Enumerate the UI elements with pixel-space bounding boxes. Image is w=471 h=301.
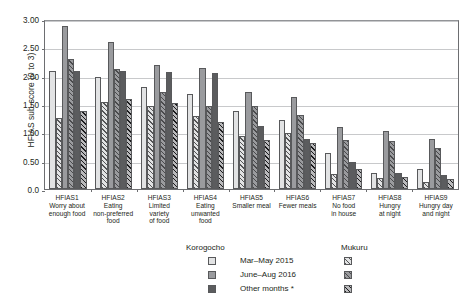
legend-swatch-mukuru bbox=[344, 285, 352, 293]
bar-group bbox=[366, 21, 412, 189]
x-axis-labels: HFIAS1Worry aboutenough foodHFIAS2Eating… bbox=[44, 194, 459, 225]
x-axis-category-desc: Limitedvarietyof food bbox=[137, 202, 181, 225]
bar bbox=[218, 122, 224, 189]
x-axis-category-desc: Worry aboutenough food bbox=[45, 202, 89, 217]
legend-swatch-korogocho bbox=[208, 257, 216, 265]
y-axis-tick-label: 0.50 bbox=[5, 158, 39, 167]
x-axis-category: HFIAS8Hungryat night bbox=[367, 194, 413, 225]
y-axis-tick-label: 1.50 bbox=[5, 101, 39, 110]
bar bbox=[356, 169, 362, 189]
x-axis-category-code: HFIAS9 bbox=[414, 194, 458, 202]
x-axis-category-code: HFIAS3 bbox=[137, 194, 181, 202]
x-axis-category-desc: Hungry dayand night bbox=[414, 202, 458, 217]
bar bbox=[447, 179, 453, 189]
bar bbox=[126, 99, 132, 189]
y-axis-tick-label: 0.0 bbox=[5, 186, 39, 195]
legend-swatch-mukuru bbox=[344, 257, 352, 265]
x-axis-category: HFIAS2Eatingnon-preferredfood bbox=[90, 194, 136, 225]
plot-area: 0.00.501.001.502.002.503.00 bbox=[44, 20, 459, 190]
bar-group bbox=[320, 21, 366, 189]
bar bbox=[402, 177, 408, 189]
x-axis-category-desc: Eatingnon-preferredfood bbox=[91, 202, 135, 225]
x-axis-category-code: HFIAS7 bbox=[322, 194, 366, 202]
legend-column-mukuru: Mukuru bbox=[341, 243, 368, 252]
x-axis-category: HFIAS4Eatingunwantedfood bbox=[182, 194, 228, 225]
y-axis-tick-label: 3.00 bbox=[5, 16, 39, 25]
x-axis-category-code: HFIAS1 bbox=[45, 194, 89, 202]
x-axis-category-code: HFIAS4 bbox=[183, 194, 227, 202]
bar bbox=[80, 111, 86, 189]
chart-figure: HFIAS sub-score (0 to 3) 0.00.501.001.50… bbox=[0, 0, 471, 301]
x-axis-category-code: HFIAS5 bbox=[229, 194, 273, 202]
x-axis-category: HFIAS6Fewer meals bbox=[275, 194, 321, 225]
x-axis-category-desc: No foodin house bbox=[322, 202, 366, 217]
legend-label: June–Aug 2016 bbox=[240, 270, 296, 279]
x-axis-category-desc: Eatingunwantedfood bbox=[183, 202, 227, 225]
x-axis-category: HFIAS9Hungry dayand night bbox=[413, 194, 459, 225]
bar-group bbox=[45, 21, 91, 189]
x-axis-category-code: HFIAS6 bbox=[276, 194, 320, 202]
x-axis-category-code: HFIAS2 bbox=[91, 194, 135, 202]
legend-swatch-mukuru bbox=[344, 271, 352, 279]
y-axis-tick-label: 2.00 bbox=[5, 73, 39, 82]
legend-swatch-korogocho bbox=[208, 285, 216, 293]
bar-group bbox=[229, 21, 275, 189]
bar-group bbox=[412, 21, 458, 189]
y-axis-tick-label: 1.00 bbox=[5, 129, 39, 138]
x-axis-category-desc: Fewer meals bbox=[276, 202, 320, 210]
x-axis-category-desc: Smaller meal bbox=[229, 202, 273, 210]
bar bbox=[264, 140, 270, 189]
y-axis-tick-mark bbox=[42, 191, 45, 192]
x-axis-category: HFIAS5Smaller meal bbox=[228, 194, 274, 225]
bar-group bbox=[183, 21, 229, 189]
bar bbox=[310, 143, 316, 189]
bar bbox=[172, 103, 178, 189]
legend-label: Other months * bbox=[240, 284, 294, 293]
bar-group bbox=[137, 21, 183, 189]
bar-group bbox=[274, 21, 320, 189]
y-axis-tick-label: 2.50 bbox=[5, 44, 39, 53]
x-axis-category: HFIAS1Worry aboutenough food bbox=[44, 194, 90, 225]
bar-groups bbox=[45, 21, 458, 189]
x-axis-category-code: HFIAS8 bbox=[368, 194, 412, 202]
bar-group bbox=[91, 21, 137, 189]
x-axis-category-desc: Hungryat night bbox=[368, 202, 412, 217]
legend-swatch-korogocho bbox=[208, 271, 216, 279]
x-axis-category: HFIAS7No foodin house bbox=[321, 194, 367, 225]
legend-label: Mar–May 2015 bbox=[240, 256, 293, 265]
x-axis-category: HFIAS3Limitedvarietyof food bbox=[136, 194, 182, 225]
legend-column-korogocho: Korogocho bbox=[186, 243, 225, 252]
